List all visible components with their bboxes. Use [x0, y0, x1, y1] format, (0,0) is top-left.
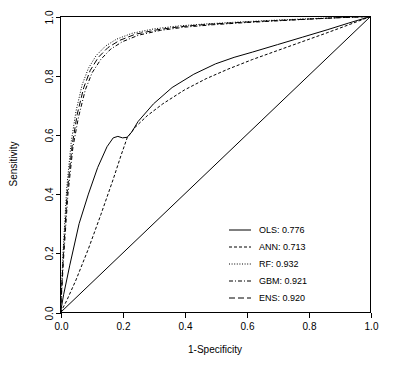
x-axis-title: 1-Specificity — [188, 344, 242, 355]
y-tick-label: 0.6 — [44, 128, 55, 142]
y-axis-ticks-group — [56, 18, 61, 314]
legend-label-ols: OLS: 0.776 — [259, 225, 305, 235]
y-tick-label: 1.0 — [44, 10, 55, 24]
chart-legend: OLS: 0.776ANN: 0.713RF: 0.932GBM: 0.921E… — [229, 225, 307, 303]
roc-plot-svg: 0.00.20.40.60.81.0 0.00.20.40.60.81.0 1-… — [0, 0, 400, 367]
y-tick-label: 0.0 — [44, 306, 55, 320]
chance-diagonal-line — [61, 17, 371, 313]
y-axis-title: Sensitivity — [8, 141, 19, 186]
roc-chart-figure: 0.00.20.40.60.81.0 0.00.20.40.60.81.0 1-… — [0, 0, 400, 367]
x-axis-ticks-group — [62, 313, 372, 318]
chance-diagonal-group — [61, 17, 371, 313]
x-axis-tick-labels-group: 0.00.20.40.60.81.0 — [55, 321, 379, 332]
legend-label-ann: ANN: 0.713 — [259, 242, 306, 252]
legend-label-rf: RF: 0.932 — [259, 259, 299, 269]
y-tick-label: 0.8 — [44, 69, 55, 83]
x-tick-label: 0.8 — [303, 321, 317, 332]
x-tick-label: 0.6 — [241, 321, 255, 332]
y-tick-label: 0.4 — [44, 187, 55, 201]
y-axis-tick-labels-group: 0.00.20.40.60.81.0 — [44, 10, 55, 320]
legend-label-ens: ENS: 0.920 — [259, 293, 305, 303]
x-tick-label: 1.0 — [365, 321, 379, 332]
x-tick-label: 0.2 — [117, 321, 131, 332]
legend-label-gbm: GBM: 0.921 — [259, 276, 307, 286]
x-tick-label: 0.0 — [55, 321, 69, 332]
x-tick-label: 0.4 — [179, 321, 193, 332]
y-tick-label: 0.2 — [44, 246, 55, 260]
